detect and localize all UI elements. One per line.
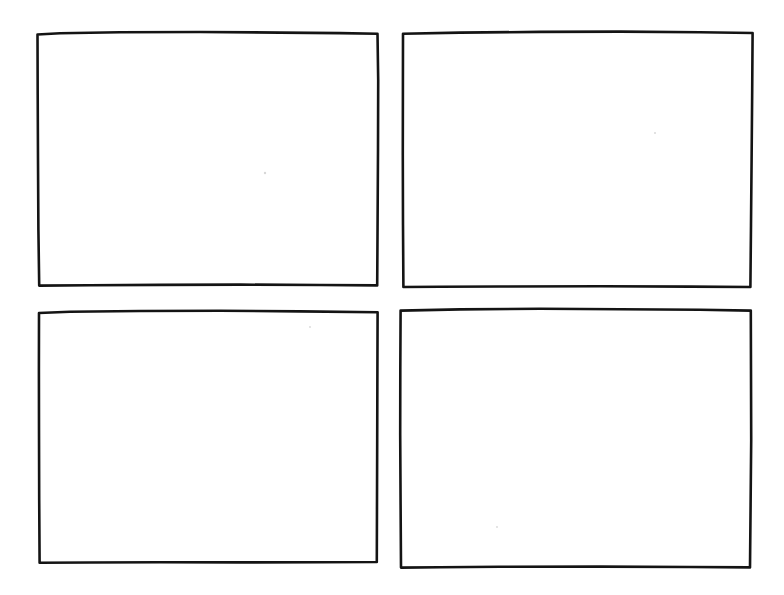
storyboard-canvas [0, 0, 784, 595]
panel-group-1[interactable] [38, 32, 379, 286]
panel-4-drawing-area[interactable] [405, 314, 746, 563]
panel-1-drawing-area[interactable] [42, 37, 373, 280]
storyboard-sheet [0, 0, 784, 595]
paper-speck-2 [654, 132, 656, 134]
panel-3-drawing-area[interactable] [44, 316, 373, 558]
paper-speck-1 [264, 172, 266, 174]
paper-speck-3 [309, 326, 311, 328]
panel-group-4[interactable] [400, 309, 751, 568]
panel-2-drawing-area[interactable] [407, 37, 747, 282]
panel-group-3[interactable] [39, 311, 378, 563]
paper-speck-4 [496, 526, 498, 528]
panel-group-2[interactable] [403, 32, 753, 287]
